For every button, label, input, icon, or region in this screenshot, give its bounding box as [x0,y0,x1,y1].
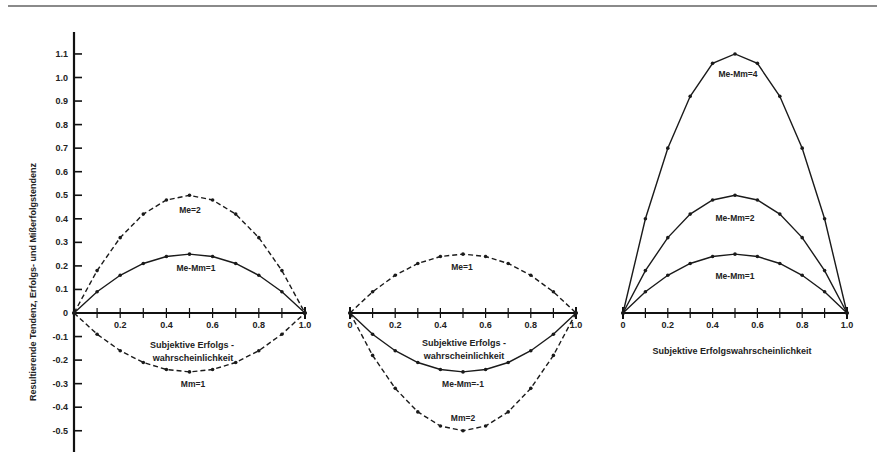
label-me-mm-1: Me-Mm=1 [716,271,755,281]
data-point [95,269,99,273]
y-tick-label: 0.7 [55,143,68,153]
data-point [800,274,804,278]
data-point [823,290,827,294]
data-point [416,361,420,365]
data-point [461,429,465,433]
y-axis-title: Resultierende Tendenz, Erfolgs- und Miße… [28,163,38,401]
data-point [506,361,510,365]
data-point [733,52,737,56]
x-tick-label: 0.2 [114,320,127,330]
data-point [118,274,122,278]
label-mm-2: Mm=2 [451,413,476,423]
data-point [280,269,284,273]
data-point [393,349,397,353]
panel-1-xlabel-line2: wahrscheinlichkeit [152,353,234,363]
data-point [778,95,782,99]
data-point [778,262,782,266]
data-point [280,290,284,294]
x-tick-label: 1.0 [841,320,854,330]
x-tick-label: 0.6 [479,320,492,330]
data-point [800,236,804,240]
panel-3: 00.20.40.60.81.0 [620,52,853,330]
label-me-mm-neg1: Me-Mm=-1 [442,379,484,389]
data-point [644,217,648,221]
data-point [552,332,556,336]
data-point [711,255,715,259]
y-tick-label: -0.1 [52,332,68,342]
data-point [688,262,692,266]
data-point [95,332,99,336]
data-point [506,410,510,414]
data-point [574,311,578,315]
x-tick-label: 0.8 [796,320,809,330]
data-point [823,269,827,273]
panel-2-xlabel-line2: wahrscheinlichkeit [423,351,505,361]
data-point [234,212,238,216]
label-mm-1: Mm=1 [181,379,206,389]
data-point [778,212,782,216]
x-tick-label: 0.4 [434,320,447,330]
label-me-mm-4: Me-Mm=4 [719,69,758,79]
data-point [142,361,146,365]
data-point [371,354,375,358]
y-tick-label: 0.5 [55,190,68,200]
data-point [234,361,238,365]
data-point [371,290,375,294]
y-tick-label: 1.0 [55,73,68,83]
data-point [666,236,670,240]
data-point [280,332,284,336]
data-point [756,198,760,202]
data-point [461,252,465,256]
data-point [188,193,192,197]
data-point [439,255,443,259]
data-point [234,262,238,266]
data-point [666,146,670,150]
data-point [756,255,760,259]
data-point [118,349,122,353]
x-tick-label: 0.6 [206,320,219,330]
data-point [688,95,692,99]
data-point [439,368,443,372]
data-point [733,193,737,197]
data-point [72,311,76,315]
data-point [348,311,352,315]
data-point [165,255,169,259]
data-point [371,332,375,336]
data-point [644,290,648,294]
data-point [552,290,556,294]
data-point [257,236,261,240]
x-tick-label: 0.4 [706,320,719,330]
panel-3-xlabel: Subjektive Erfolgswahrscheinlichkeit [652,346,811,356]
data-point [621,311,625,315]
y-tick-label: 0.3 [55,237,68,247]
label-me-mm-2: Me-Mm=2 [716,213,755,223]
y-tick-label: 0.4 [55,214,68,224]
data-point [506,262,510,266]
data-point [529,274,533,278]
data-point [393,274,397,278]
data-point [95,290,99,294]
data-point [823,217,827,221]
x-tick-label: 0 [620,320,625,330]
data-point [484,255,488,259]
data-point [211,255,215,259]
y-tick-label: 0.9 [55,96,68,106]
data-point [529,387,533,391]
data-point [188,370,192,374]
y-tick-label: -0.5 [52,426,68,436]
data-point [188,252,192,256]
y-tick-label: 0 [63,308,68,318]
data-point [845,311,849,315]
data-point [257,274,261,278]
data-point [461,370,465,374]
x-tick-label: 0.8 [525,320,538,330]
data-point [142,262,146,266]
panel-1-xlabel-line1: Subjektive Erfolgs - [150,340,234,350]
y-tick-label: 1.1 [55,49,68,59]
chart-figure: 1.11.00.90.80.70.60.50.40.30.20.10-0.1-0… [0,0,885,472]
x-tick-label: 1.0 [299,320,312,330]
x-tick-label: 0 [347,320,352,330]
y-tick-label: -0.2 [52,355,68,365]
series-me-mm-1 [623,254,847,313]
data-point [800,146,804,150]
